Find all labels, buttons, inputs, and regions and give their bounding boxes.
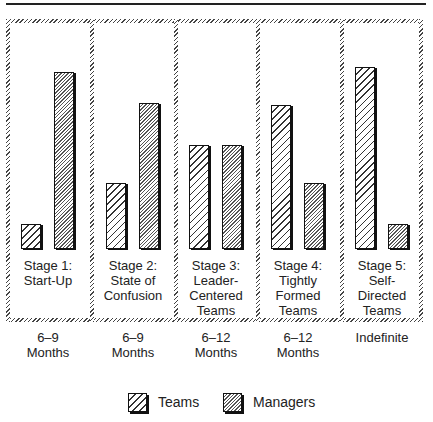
managers-bar	[388, 224, 408, 249]
teams-bar	[21, 224, 41, 249]
teams-bar	[355, 67, 375, 249]
teams-bar	[106, 183, 126, 249]
stage-label: Stage 2:State ofConfusion	[93, 258, 173, 303]
stage-label: Stage 5:Self-DirectedTeams	[342, 258, 422, 318]
legend-managers-label: Managers	[253, 394, 315, 410]
legend: Teams Managers	[0, 393, 433, 415]
teams-bar	[189, 145, 209, 249]
stage-label: Stage 3:Leader-CenteredTeams	[176, 258, 256, 318]
duration-label: 6–9Months	[93, 330, 173, 360]
duration-label: 6–12Months	[258, 330, 338, 360]
stage-label: Stage 1:Start-Up	[8, 258, 88, 288]
duration-label: 6–12Months	[176, 330, 256, 360]
managers-bar	[54, 72, 74, 249]
legend-managers-swatch-icon	[223, 393, 242, 412]
top-rule	[6, 3, 426, 5]
duration-label: Indefinite	[342, 330, 422, 345]
managers-bar	[139, 103, 159, 249]
frame-border-top	[6, 19, 423, 23]
legend-teams-swatch-icon	[128, 393, 147, 412]
legend-teams-label: Teams	[158, 394, 199, 410]
managers-bar	[304, 183, 324, 249]
managers-bar	[222, 145, 242, 249]
frame-border-bottom	[6, 318, 423, 322]
duration-label: 6–9Months	[8, 330, 88, 360]
stage-label: Stage 4:TightlyFormedTeams	[258, 258, 338, 318]
teams-bar	[271, 105, 291, 249]
